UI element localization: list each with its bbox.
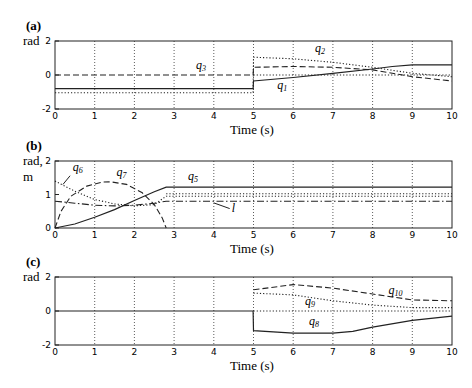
x-tick-label: 9 [409, 111, 415, 121]
y-tick-label: 2 [45, 272, 51, 282]
x-tick-label: 1 [92, 111, 98, 121]
x-tick-label: 1 [92, 230, 98, 240]
x-tick-label: 3 [171, 111, 177, 121]
figure: (a)radq3q2q1-202012345678910Time (s)(b)r… [0, 0, 472, 388]
x-tick-label: 8 [370, 347, 376, 357]
x-tick-label: 6 [290, 111, 296, 121]
x-tick-label: 4 [211, 111, 217, 121]
x-tick-label: 4 [211, 347, 217, 357]
series-q10 [254, 285, 453, 301]
panel-label: (a) [26, 18, 41, 33]
x-tick-label: 7 [330, 111, 336, 121]
annotation-q7: q7 [117, 165, 128, 180]
x-tick-label: 2 [132, 111, 138, 121]
x-tick-label: 10 [446, 111, 458, 121]
x-tick-label: 3 [171, 347, 177, 357]
x-tick-label: 5 [251, 111, 257, 121]
panel-a: (a)radq3q2q1-202012345678910Time (s) [23, 18, 458, 137]
annotation-q3: q3 [196, 58, 206, 73]
annotation-q9: q9 [305, 294, 315, 309]
x-tick-label: 8 [370, 111, 376, 121]
panel-label: (c) [26, 254, 40, 269]
series-group [55, 57, 452, 93]
y-tick-label: 0 [45, 306, 51, 316]
x-tick-label: 2 [132, 347, 138, 357]
series-q9 [254, 293, 453, 308]
x-tick-label: 7 [330, 230, 336, 240]
annotation-q8: q8 [309, 314, 319, 329]
x-tick-label: 8 [370, 230, 376, 240]
x-tick-label: 3 [171, 230, 177, 240]
x-tick-label: 6 [290, 347, 296, 357]
y-axis-label: rad [23, 33, 40, 48]
y-axis-label-line2: m [23, 169, 33, 184]
y-tick-label: 2 [45, 36, 51, 46]
x-tick-label: 1 [92, 347, 98, 357]
y-axis-label: rad, [23, 153, 43, 168]
x-axis-label: Time (s) [230, 358, 274, 373]
x-tick-label: 2 [132, 230, 138, 240]
x-tick-label: 10 [446, 347, 458, 357]
y-tick-label: 0 [45, 223, 51, 233]
x-tick-label: 6 [290, 230, 296, 240]
x-axis-label: Time (s) [230, 241, 274, 256]
x-tick-label: 5 [251, 230, 257, 240]
annotation-q10: q10 [388, 283, 402, 298]
annotation-l: l [232, 201, 236, 215]
y-tick-label: -2 [42, 340, 51, 350]
annotation-q6: q6 [73, 160, 83, 175]
panel-b: (b)rad,mq6q7q5l012012345678910Time (s) [23, 138, 458, 256]
x-axis-label: Time (s) [230, 122, 274, 137]
x-tick-label: 9 [409, 347, 415, 357]
series-q8 [55, 311, 452, 333]
x-tick-label: 10 [446, 230, 458, 240]
y-tick-label: 2 [45, 156, 51, 166]
annotation-leader [63, 176, 70, 185]
x-tick-label: 4 [211, 230, 217, 240]
panel-label: (b) [26, 138, 42, 153]
annotation-q2: q2 [315, 41, 325, 56]
x-tick-label: 7 [330, 347, 336, 357]
y-tick-label: 0 [45, 70, 51, 80]
annotation-q5: q5 [188, 169, 198, 184]
y-tick-label: 1 [45, 190, 51, 200]
x-tick-label: 0 [52, 347, 58, 357]
x-tick-label: 0 [52, 230, 58, 240]
y-tick-label: -2 [42, 104, 51, 114]
annotation-q1: q1 [277, 78, 287, 93]
panel-c: (c)radq10q9q8-202012345678910Time (s) [23, 254, 458, 373]
x-tick-label: 9 [409, 230, 415, 240]
annotation-leader [214, 203, 230, 209]
x-tick-label: 5 [251, 347, 257, 357]
x-tick-label: 0 [52, 111, 58, 121]
y-axis-label: rad [23, 269, 40, 284]
